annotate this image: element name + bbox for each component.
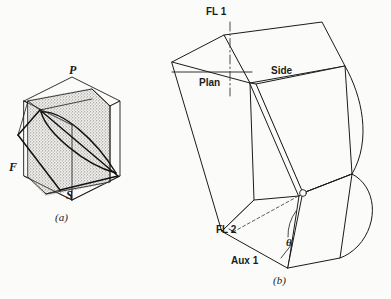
figure-canvas: P F S (a) FL 1 Plan Side FL 2 Aux 1 θ (b… (0, 0, 391, 299)
caption-panel-b: (b) (273, 275, 286, 286)
label-plane-s: S (66, 189, 73, 201)
label-fold-line-1: FL 1 (206, 7, 226, 17)
label-plane-f: F (9, 161, 17, 173)
label-side-view: Side (271, 66, 292, 76)
label-plan-view: Plan (199, 78, 220, 88)
panel-a-group (18, 22, 372, 268)
panel-b-group (172, 22, 372, 268)
caption-panel-a: (a) (55, 212, 68, 223)
label-plane-p: P (69, 64, 76, 76)
label-fold-line-2: FL 2 (216, 225, 236, 235)
figure-drawing (0, 0, 391, 299)
label-auxiliary-view: Aux 1 (231, 256, 258, 266)
label-angle-theta: θ (286, 237, 292, 248)
point-circle-icon (300, 190, 307, 197)
